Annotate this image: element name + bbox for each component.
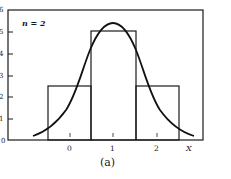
y-axis-ticks: [8, 32, 13, 119]
x-axis-label: X: [185, 144, 192, 153]
x-tick-2: 2: [154, 144, 159, 153]
y-axis-tick-labels: 0 1 2 3 4 5 6: [0, 6, 5, 145]
normal-curve: [33, 23, 194, 136]
y-tick-2: 2: [0, 93, 3, 101]
annotation-n: n = 2: [22, 18, 46, 28]
histogram-bars: [48, 31, 179, 140]
bar-x-2: [136, 86, 179, 140]
panel-label: (a): [100, 156, 115, 169]
histogram-chart: 0 1 2 3 4 5 6 n = 2 0 1 2 X (a): [0, 0, 231, 179]
x-tick-0: 0: [67, 144, 72, 153]
y-tick-3: 3: [0, 72, 3, 80]
plot-frame: [8, 10, 203, 140]
bar-x-1: [91, 31, 136, 140]
y-tick-5: 5: [0, 28, 3, 36]
y-tick-0: 0: [1, 137, 5, 145]
y-tick-6: 6: [0, 6, 4, 14]
y-tick-1: 1: [0, 115, 3, 123]
y-tick-4: 4: [0, 50, 4, 58]
x-tick-1: 1: [110, 144, 115, 153]
bar-x-0: [48, 86, 91, 140]
x-axis-ticks: [70, 133, 157, 137]
